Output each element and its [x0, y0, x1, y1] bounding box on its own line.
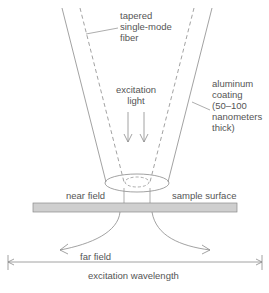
far-field-label: far field — [80, 251, 111, 262]
sample-surface-slab — [33, 203, 237, 212]
coating-right-line — [168, 8, 212, 182]
tip-core — [125, 177, 149, 187]
wavelength-dimension — [8, 255, 262, 270]
nsom-diagram — [0, 0, 269, 293]
coating-leader — [192, 102, 210, 110]
near-field-label: near field — [66, 190, 105, 201]
wavelength-label: excitation wavelength — [88, 270, 179, 281]
excitation-arrows — [124, 112, 148, 142]
far-field-curves — [60, 212, 210, 254]
coating-left-line — [62, 8, 106, 182]
coating-label: aluminum coating (50–100 nanometers thic… — [212, 78, 262, 133]
fiber-label: tapered single-mode fiber — [120, 10, 172, 43]
sample-surface-label: sample surface — [172, 190, 236, 201]
excitation-light-label: excitation light — [112, 84, 160, 106]
fiber-leader — [86, 28, 118, 34]
